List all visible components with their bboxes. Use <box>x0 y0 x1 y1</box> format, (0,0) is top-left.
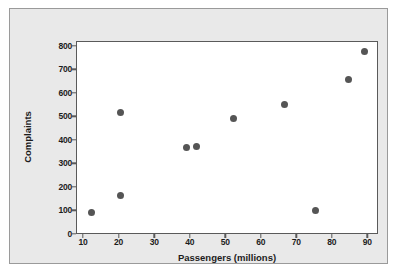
data-point <box>361 48 368 55</box>
y-axis-tick-label: 700 <box>58 64 72 74</box>
y-axis-tick-label: 200 <box>58 182 72 192</box>
x-axis-tick-mark <box>260 234 261 238</box>
y-axis-tick-mark <box>72 163 76 164</box>
x-axis-tick-label: 40 <box>185 237 194 247</box>
y-axis-tick-label: 400 <box>58 135 72 145</box>
data-point <box>230 115 237 122</box>
x-axis-tick-mark <box>153 234 154 238</box>
y-axis-tick-label: 500 <box>58 111 72 121</box>
y-axis-title: Complaints <box>22 111 33 163</box>
x-axis-tick-mark <box>296 234 297 238</box>
data-point <box>183 144 190 151</box>
y-axis-tick-mark <box>72 186 76 187</box>
data-point <box>193 143 200 150</box>
x-axis-tick-mark <box>82 234 83 238</box>
data-point <box>281 101 288 108</box>
data-point <box>345 76 352 83</box>
data-point <box>312 207 319 214</box>
y-axis-tick-mark <box>72 69 76 70</box>
y-axis-tick-label: 100 <box>58 205 72 215</box>
x-axis-tick-label: 70 <box>292 237 301 247</box>
x-axis-title: Passengers (millions) <box>76 252 378 263</box>
x-axis-tick-label: 90 <box>363 237 372 247</box>
figure-frame: 0100200300400500600700800 10203040506070… <box>9 8 388 264</box>
x-axis-tick-mark <box>189 234 190 238</box>
x-axis-tick-label: 60 <box>256 237 265 247</box>
x-axis-tick-label: 30 <box>150 237 159 247</box>
x-axis-tick-label: 20 <box>114 237 123 247</box>
plot-area-box <box>76 41 378 234</box>
scatter-plot-figure: 0100200300400500600700800 10203040506070… <box>0 0 399 275</box>
x-axis-tick-labels: 102030405060708090 <box>76 237 378 253</box>
plot-surface <box>77 42 377 233</box>
data-point <box>117 109 124 116</box>
data-point <box>117 192 124 199</box>
data-point <box>88 209 95 216</box>
y-axis-tick-label: 800 <box>58 41 72 51</box>
x-axis-tick-mark <box>225 234 226 238</box>
y-axis-tick-mark <box>72 116 76 117</box>
x-axis-tick-marks <box>76 234 378 238</box>
x-axis-tick-mark <box>118 234 119 238</box>
y-axis-tick-mark <box>72 92 76 93</box>
x-axis-tick-mark <box>367 234 368 238</box>
y-axis-tick-mark <box>72 210 76 211</box>
x-axis-tick-label: 80 <box>327 237 336 247</box>
y-axis-tick-marks <box>72 41 76 234</box>
x-axis-tick-label: 50 <box>221 237 230 247</box>
y-axis-tick-label: 300 <box>58 158 72 168</box>
y-axis-tick-mark <box>72 45 76 46</box>
y-axis-tick-label: 600 <box>58 88 72 98</box>
y-axis-tick-labels: 0100200300400500600700800 <box>48 41 72 234</box>
x-axis-tick-mark <box>331 234 332 238</box>
y-axis-tick-mark <box>72 139 76 140</box>
x-axis-tick-label: 10 <box>79 237 88 247</box>
